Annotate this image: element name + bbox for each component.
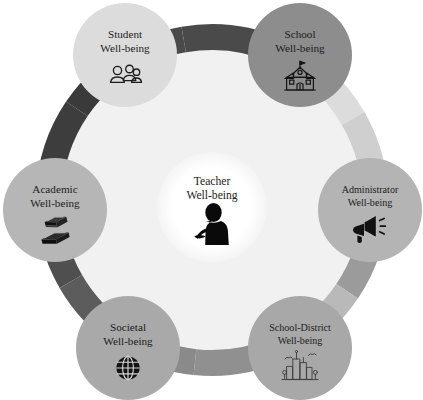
diagram-canvas: Teacher Well-being Student Well-being xyxy=(0,0,423,400)
node-school-district-label-line1: School-District xyxy=(269,322,331,333)
node-school-district-label-line2: Well-being xyxy=(278,335,323,346)
node-school-label-line1: School xyxy=(284,28,315,40)
node-administrator-label-line1: Administrator xyxy=(342,184,399,195)
node-societal-label-line1: Societal xyxy=(110,321,146,333)
node-academic-label-line2: Well-being xyxy=(30,197,80,209)
node-school-circle xyxy=(248,3,352,107)
node-student-label-line1: Student xyxy=(108,28,143,40)
node-student-label-line2: Well-being xyxy=(100,42,150,54)
wellbeing-circular-diagram: Teacher Well-being Student Well-being xyxy=(0,0,423,400)
node-societal[interactable]: Societal Well-being xyxy=(76,296,180,400)
center-node-teacher[interactable]: Teacher Well-being xyxy=(157,152,267,262)
node-administrator[interactable]: Administrator Well-being xyxy=(318,158,422,262)
center-label-line2: Well-being xyxy=(186,189,237,202)
node-administrator-circle xyxy=(318,158,422,262)
node-academic-label-line1: Academic xyxy=(32,183,77,195)
globe-icon xyxy=(116,356,139,379)
node-school-district-circle xyxy=(248,296,352,400)
node-academic-circle xyxy=(3,158,107,262)
node-academic[interactable]: Academic Well-being xyxy=(3,158,107,262)
center-label-line1: Teacher xyxy=(194,175,231,188)
node-societal-circle xyxy=(76,296,180,400)
node-societal-label-line2: Well-being xyxy=(103,335,153,347)
node-administrator-label-line2: Well-being xyxy=(348,197,393,208)
node-student-circle xyxy=(73,3,177,107)
node-school[interactable]: School Well-being xyxy=(248,3,352,107)
node-school-label-line2: Well-being xyxy=(275,42,325,54)
node-school-district[interactable]: School-District Well-being xyxy=(248,296,352,400)
node-student[interactable]: Student Well-being xyxy=(73,3,177,107)
